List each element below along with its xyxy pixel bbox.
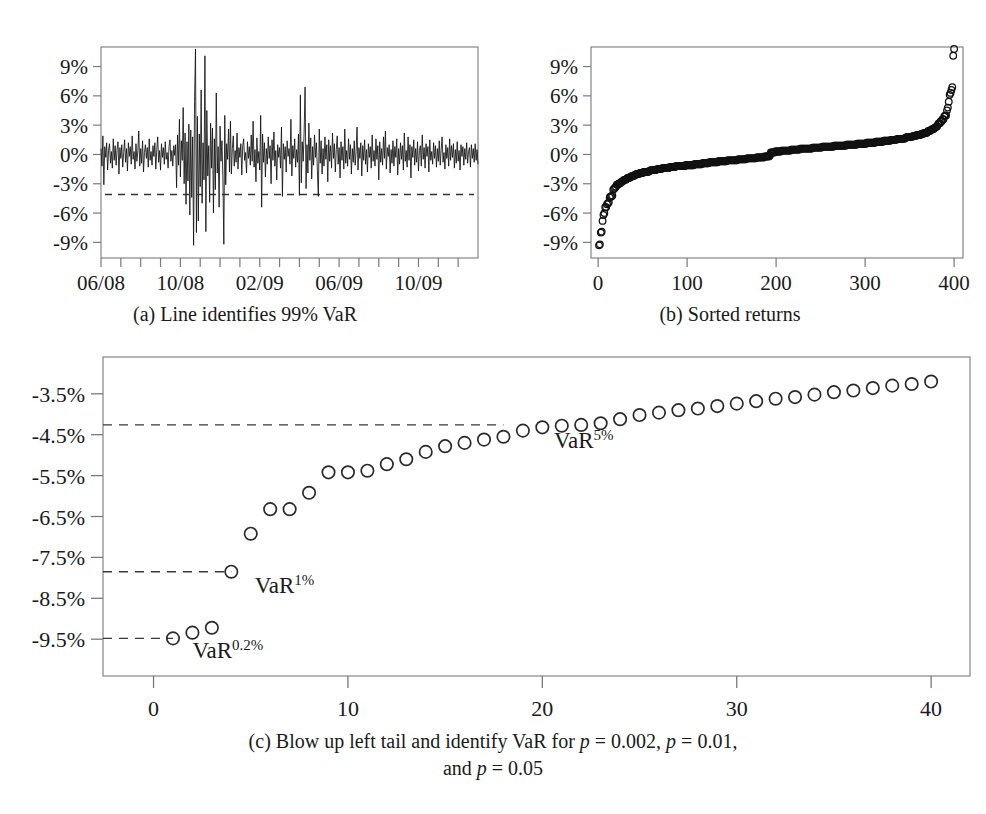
panel-a-ytick-label: 3% [60,114,88,138]
panel-a: 9%6%3%0%-3%-6%-9%06/0810/0802/0906/0910/… [0,30,500,280]
panel-b-ytick-label: 0% [550,143,578,167]
panel-c-plot: -3.5%-4.5%-5.5%-6.5%-7.5%-8.5%-9.5%01020… [0,350,986,695]
var-0p2-base: VaR [192,638,232,663]
panel-a-subcaption: (a) Line identifies 99% VaR [0,301,490,327]
figure-var-panels: 9%6%3%0%-3%-6%-9%06/0810/0802/0906/0910/… [0,0,986,814]
panel-c-xtick-label: 40 [920,696,942,721]
panel-b-plot: 9%6%3%0%-3%-6%-9%0100200300400 [490,30,986,280]
panel-a-ytick-label: 6% [60,84,88,108]
panel-b-ytick-label: -3% [543,172,578,196]
panel-a-ytick-label: -3% [53,172,88,196]
panel-b-xtick-label: 200 [760,271,792,295]
panel-c-xtick-label: 10 [337,696,359,721]
panel-b-ytick-label: 6% [550,84,578,108]
panel-c-ytick-label: -7.5% [32,545,85,570]
caption-p1: p [580,730,590,752]
panel-b-ytick-label: 9% [550,55,578,79]
panel-a-xtick-label: 06/09 [315,271,363,295]
caption-eq3: = 0.05 [487,757,543,779]
panel-a-ytick-label: -9% [53,231,88,255]
var-1-superscript: 1% [294,572,314,588]
caption-line1-pre: (c) Blow up left tail and identify VaR f… [249,730,580,752]
panel-b-xtick-label: 300 [849,271,881,295]
caption-line2-pre: and [443,757,477,779]
panel-b-xtick-label: 0 [593,271,604,295]
panel-b-xtick-label: 400 [938,271,970,295]
panel-b-ytick-label: -9% [543,231,578,255]
panel-a-ytick-label: 9% [60,55,88,79]
panel-b-ytick-label: 3% [550,114,578,138]
panel-c-ytick-label: -3.5% [32,382,85,407]
panel-a-xtick-label: 02/09 [236,271,284,295]
caption-p3: p [477,757,487,779]
var-1-base: VaR [255,573,295,598]
panel-a-xtick-label: 06/08 [77,271,125,295]
panel-c-xtick-label: 20 [531,696,553,721]
panel-a-ytick-label: -6% [53,202,88,226]
panel-c-ytick-label: -4.5% [32,423,85,448]
var-5-base: VaR [554,428,594,453]
panel-c-ytick-label: -5.5% [32,464,85,489]
caption-p2: p [666,730,676,752]
panel-a-ytick-label: 0% [60,143,88,167]
panel-c-ytick-label: -9.5% [32,627,85,652]
caption-eq2: = 0.01, [676,730,737,752]
var-5-superscript: 5% [594,427,614,443]
panel-c: -3.5%-4.5%-5.5%-6.5%-7.5%-8.5%-9.5%01020… [0,350,986,695]
figure-main-caption: (c) Blow up left tail and identify VaR f… [0,728,986,782]
caption-line-1: (c) Blow up left tail and identify VaR f… [0,728,986,755]
panel-b-xtick-label: 100 [671,271,703,295]
panel-c-ytick-label: -6.5% [32,505,85,530]
panel-c-frame [103,357,970,676]
panel-a-plot: 9%6%3%0%-3%-6%-9%06/0810/0802/0906/0910/… [0,30,500,280]
panel-b: 9%6%3%0%-3%-6%-9%0100200300400 [490,30,986,280]
panel-b-subcaption: (b) Sorted returns [490,301,970,327]
panel-c-ytick-label: -8.5% [32,586,85,611]
panel-c-xtick-label: 30 [726,696,748,721]
panel-b-ytick-label: -6% [543,202,578,226]
panel-a-xtick-label: 10/09 [395,271,443,295]
var-0p2-superscript: 0.2% [232,637,263,653]
panel-a-xtick-label: 10/08 [156,271,204,295]
caption-eq1: = 0.002, [590,730,666,752]
panel-c-xtick-label: 0 [148,696,159,721]
caption-line-2: and p = 0.05 [0,755,986,782]
